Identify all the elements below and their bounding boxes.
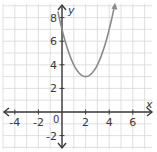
x-tick-label: 2: [82, 116, 89, 129]
coordinate-plane: -4-22468642-2 x y 0: [0, 0, 157, 152]
x-axis-label: x: [145, 98, 153, 111]
y-tick-label: -2: [46, 130, 57, 143]
y-tick-label: 8: [50, 12, 57, 25]
y-axis-label: y: [67, 4, 75, 17]
x-tick-label: -2: [33, 116, 44, 129]
curve-arrow-icon: [112, 3, 118, 10]
x-tick-label: 6: [129, 116, 136, 129]
x-tick-label: 4: [106, 116, 113, 129]
tick-labels: -4-22468642-2: [9, 12, 136, 143]
y-tick-label: 2: [50, 82, 57, 95]
x-tick-label: -4: [9, 116, 20, 129]
graph-svg: -4-22468642-2 x y 0: [0, 0, 157, 152]
origin-label: 0: [53, 114, 59, 125]
y-tick-label: 6: [50, 35, 57, 48]
y-tick-label: 4: [50, 59, 57, 72]
